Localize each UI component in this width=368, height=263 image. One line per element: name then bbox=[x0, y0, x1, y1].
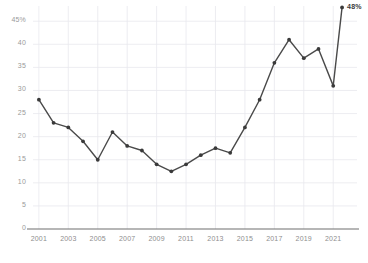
x-axis-tick-2001: 2001 bbox=[23, 235, 55, 242]
y-axis-tick-40: 40 bbox=[0, 39, 26, 46]
y-axis-tick-15: 15 bbox=[0, 155, 26, 162]
y-axis-tick-20: 20 bbox=[0, 132, 26, 139]
caption-text bbox=[24, 253, 224, 262]
x-axis-tick-2019: 2019 bbox=[288, 235, 320, 242]
y-axis-tick-5: 5 bbox=[0, 201, 26, 208]
y-axis-tick-0: 0 bbox=[0, 224, 26, 231]
x-axis-tick-2005: 2005 bbox=[82, 235, 114, 242]
final-value-annotation: 48% bbox=[347, 3, 362, 10]
x-axis-tick-2009: 2009 bbox=[141, 235, 173, 242]
y-axis-tick-35: 35 bbox=[0, 62, 26, 69]
x-axis-tick-2013: 2013 bbox=[199, 235, 231, 242]
horizontal-gridlines bbox=[33, 21, 357, 206]
chart-plot-area bbox=[0, 0, 368, 263]
x-axis-tick-2021: 2021 bbox=[317, 235, 349, 242]
y-axis-tick-30: 30 bbox=[0, 85, 26, 92]
y-axis-tick-10: 10 bbox=[0, 178, 26, 185]
x-axis-tick-2017: 2017 bbox=[258, 235, 290, 242]
x-axis-tick-2003: 2003 bbox=[52, 235, 84, 242]
y-axis-tick-25: 25 bbox=[0, 109, 26, 116]
line-chart: 051015202530354045% 20012003200520072009… bbox=[0, 0, 368, 263]
x-axis-tick-2015: 2015 bbox=[229, 235, 261, 242]
y-axis-tick-45pct: 45% bbox=[0, 16, 26, 23]
series-markers bbox=[37, 5, 344, 173]
x-axis-tick-2007: 2007 bbox=[111, 235, 143, 242]
x-axis-tick-2011: 2011 bbox=[170, 235, 202, 242]
series-line bbox=[39, 7, 342, 171]
